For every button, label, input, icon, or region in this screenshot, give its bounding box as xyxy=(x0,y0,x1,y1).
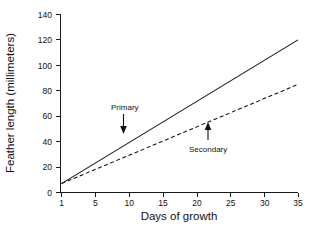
x-tick-label: 1 xyxy=(59,198,64,208)
chart-axes xyxy=(61,14,299,193)
series-line-secondary xyxy=(62,84,299,183)
y-tick-label: 120 xyxy=(38,35,52,45)
x-axis-title: Days of growth xyxy=(141,210,218,222)
arrow-up-icon xyxy=(205,122,212,130)
series-line-primary xyxy=(62,40,299,184)
x-tick-label: 35 xyxy=(293,198,303,208)
y-tick-label: 40 xyxy=(43,137,53,147)
arrow-down-icon xyxy=(120,126,127,134)
x-tick-label: 25 xyxy=(226,198,236,208)
y-axis-tick-labels: 140 120 100 80 60 40 20 0 xyxy=(38,10,52,198)
annotation-secondary-label: Secondary xyxy=(189,145,227,154)
x-tick-label: 15 xyxy=(158,198,168,208)
y-tick-label: 60 xyxy=(43,111,53,121)
x-tick-label: 20 xyxy=(192,198,202,208)
x-tick-label: 5 xyxy=(93,198,98,208)
x-axis-tick-labels: 1 5 10 15 20 25 30 35 xyxy=(59,198,303,208)
y-axis-ticks xyxy=(56,15,61,193)
annotation-primary-label: Primary xyxy=(111,103,139,112)
y-tick-label: 0 xyxy=(47,188,52,198)
feather-growth-line-chart: 140 120 100 80 60 40 20 0 1 5 10 15 20 xyxy=(0,0,313,227)
chart-figure: 140 120 100 80 60 40 20 0 1 5 10 15 20 xyxy=(0,0,313,227)
annotation-primary: Primary xyxy=(111,103,139,134)
y-tick-label: 100 xyxy=(38,61,52,71)
y-tick-label: 140 xyxy=(38,10,52,20)
x-tick-label: 10 xyxy=(124,198,134,208)
annotation-secondary: Secondary xyxy=(189,122,227,154)
x-axis-ticks xyxy=(62,193,299,198)
y-axis-title: Feather length (millimeters) xyxy=(4,33,16,173)
y-tick-label: 20 xyxy=(43,162,53,172)
y-tick-label: 80 xyxy=(43,86,53,96)
x-tick-label: 30 xyxy=(260,198,270,208)
